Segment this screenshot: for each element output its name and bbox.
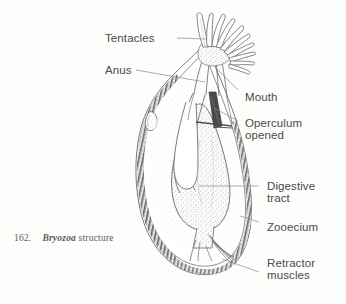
label-zooecium: Zooecium [267, 221, 318, 233]
tentacle-crown [197, 13, 256, 74]
caption-taxon: Bryozoa [42, 233, 76, 243]
label-anus: Anus [105, 64, 132, 76]
label-retractor-line2: muscles [267, 269, 310, 281]
caption-number: 162. [14, 233, 31, 243]
label-digestive-line1: Digestive [267, 180, 315, 192]
label-tentacles: Tentacles [105, 32, 154, 44]
label-retractor-line1: Retractor [267, 257, 315, 269]
label-operculum-line2: opened [245, 129, 284, 141]
label-digestive-line2: tract [267, 192, 290, 204]
label-mouth: Mouth [245, 91, 277, 103]
zooid-body [136, 13, 259, 275]
caption-rest: structure [76, 233, 114, 243]
figure-page: Tentacles Anus Mouth Operculum opened Di… [0, 0, 346, 304]
figure-caption: 162.Bryozoa structure [14, 233, 114, 243]
label-operculum-line1: Operculum [245, 117, 302, 129]
